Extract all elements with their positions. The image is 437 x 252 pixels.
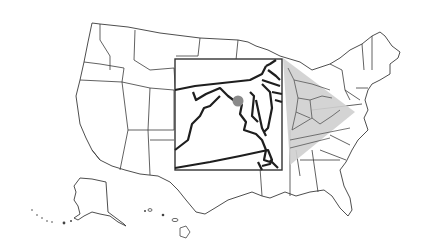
- us-locator-map: [0, 0, 437, 252]
- alaska: [31, 178, 126, 226]
- inset-virginia-maryland: [175, 59, 282, 170]
- hawaii: [144, 209, 190, 238]
- location-marker: [233, 96, 244, 107]
